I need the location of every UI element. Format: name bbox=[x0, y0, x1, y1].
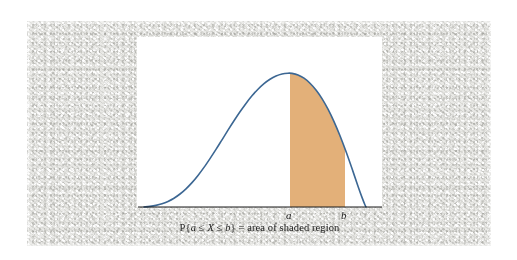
figure-caption: P{a ≤ X ≤ b} = area of shaded region bbox=[137, 222, 382, 233]
axis-label-b: b bbox=[341, 210, 347, 221]
shaded-area-region bbox=[290, 73, 345, 207]
caption-prefix: P{ bbox=[180, 222, 191, 233]
caption-suffix: } = area of shaded region bbox=[231, 222, 340, 233]
axis-label-a: a bbox=[286, 210, 292, 221]
caption-le-2: ≤ bbox=[214, 222, 225, 233]
probability-density-figure: a b P{a ≤ X ≤ b} = area of shaded region bbox=[0, 0, 517, 260]
density-curve-chart bbox=[130, 30, 395, 220]
caption-le-1: ≤ bbox=[196, 222, 207, 233]
